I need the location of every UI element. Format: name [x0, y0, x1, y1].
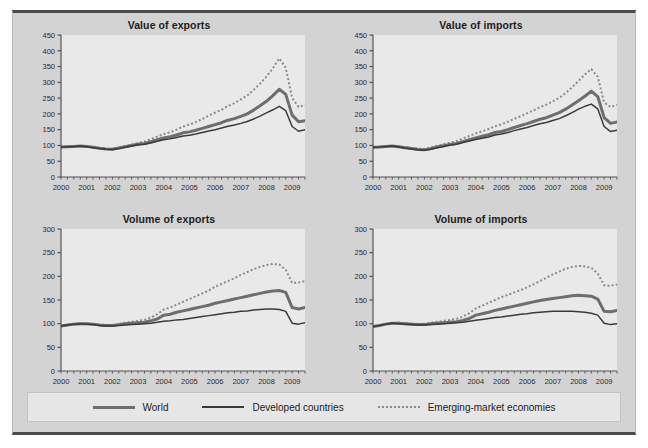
svg-text:200: 200 [42, 110, 55, 119]
svg-text:200: 200 [42, 272, 55, 281]
svg-text:2002: 2002 [416, 377, 433, 386]
svg-text:100: 100 [354, 319, 367, 328]
chart-grid: Value of exports 05010015020025030035040… [13, 13, 635, 432]
svg-text:350: 350 [354, 62, 367, 71]
svg-text:250: 250 [354, 94, 367, 103]
svg-text:2001: 2001 [390, 377, 407, 386]
line-swatch-icon [93, 402, 135, 412]
svg-text:2002: 2002 [104, 183, 121, 192]
svg-text:350: 350 [42, 62, 55, 71]
svg-text:0: 0 [363, 173, 367, 182]
svg-text:2007: 2007 [232, 377, 249, 386]
svg-text:2006: 2006 [207, 377, 224, 386]
panel-volume-of-imports: Volume of imports 0501001502002503002000… [325, 209, 637, 405]
svg-text:150: 150 [42, 296, 55, 305]
line-chart-volume-of-imports: 0501001502002503002000200120022003200420… [325, 209, 637, 405]
svg-text:50: 50 [47, 157, 55, 166]
svg-text:100: 100 [42, 141, 55, 150]
svg-text:300: 300 [42, 78, 55, 87]
svg-text:250: 250 [42, 94, 55, 103]
svg-text:2001: 2001 [78, 377, 95, 386]
svg-text:2008: 2008 [258, 377, 275, 386]
chart-frame: Value of exports 05010015020025030035040… [12, 10, 636, 435]
svg-text:200: 200 [354, 272, 367, 281]
svg-text:2001: 2001 [390, 183, 407, 192]
svg-text:2000: 2000 [365, 183, 382, 192]
svg-text:2007: 2007 [544, 377, 561, 386]
svg-text:50: 50 [359, 157, 367, 166]
svg-text:100: 100 [354, 141, 367, 150]
svg-text:2006: 2006 [207, 183, 224, 192]
svg-text:300: 300 [354, 225, 367, 234]
dotted-line-swatch-icon [378, 402, 420, 412]
svg-text:150: 150 [354, 125, 367, 134]
svg-text:2004: 2004 [155, 183, 172, 192]
svg-text:300: 300 [354, 78, 367, 87]
svg-text:400: 400 [354, 47, 367, 56]
svg-text:2004: 2004 [155, 377, 172, 386]
svg-text:2007: 2007 [232, 183, 249, 192]
panel-volume-of-exports: Volume of exports 0501001502002503002000… [13, 209, 325, 405]
svg-text:450: 450 [42, 31, 55, 40]
svg-text:50: 50 [359, 343, 367, 352]
svg-text:2008: 2008 [570, 183, 587, 192]
chart-legend: World Developed countries Emerging-marke… [27, 392, 621, 422]
svg-text:2006: 2006 [519, 377, 536, 386]
svg-text:2003: 2003 [130, 183, 147, 192]
svg-text:2009: 2009 [596, 183, 613, 192]
legend-label: Developed countries [252, 402, 343, 413]
svg-text:2005: 2005 [493, 377, 510, 386]
svg-text:2007: 2007 [544, 183, 561, 192]
svg-text:2005: 2005 [181, 377, 198, 386]
svg-text:2005: 2005 [181, 183, 198, 192]
line-swatch-icon [202, 402, 244, 412]
legend-item-emerging-market-economies: Emerging-market economies [378, 402, 556, 413]
svg-text:250: 250 [354, 248, 367, 257]
svg-text:2006: 2006 [519, 183, 536, 192]
line-chart-value-of-exports: 0501001502002503003504004502000200120022… [13, 15, 325, 211]
svg-text:50: 50 [47, 343, 55, 352]
panel-value-of-imports: Value of imports 05010015020025030035040… [325, 15, 637, 211]
svg-text:2008: 2008 [570, 377, 587, 386]
svg-text:2003: 2003 [130, 377, 147, 386]
svg-text:2000: 2000 [53, 183, 70, 192]
svg-text:0: 0 [363, 367, 367, 376]
svg-text:2009: 2009 [284, 377, 301, 386]
svg-text:100: 100 [42, 319, 55, 328]
svg-text:2000: 2000 [365, 377, 382, 386]
panel-value-of-exports: Value of exports 05010015020025030035040… [13, 15, 325, 211]
svg-text:250: 250 [42, 248, 55, 257]
legend-label: Emerging-market economies [428, 402, 556, 413]
svg-text:0: 0 [51, 173, 55, 182]
line-chart-volume-of-exports: 0501001502002503002000200120022003200420… [13, 209, 325, 405]
svg-text:2001: 2001 [78, 183, 95, 192]
legend-label: World [143, 402, 169, 413]
svg-text:2005: 2005 [493, 183, 510, 192]
svg-text:400: 400 [42, 47, 55, 56]
svg-text:200: 200 [354, 110, 367, 119]
line-chart-value-of-imports: 0501001502002503003504004502000200120022… [325, 15, 637, 211]
svg-text:2004: 2004 [467, 183, 484, 192]
svg-text:0: 0 [51, 367, 55, 376]
svg-text:150: 150 [354, 296, 367, 305]
svg-text:2003: 2003 [442, 377, 459, 386]
svg-text:2000: 2000 [53, 377, 70, 386]
svg-text:2004: 2004 [467, 377, 484, 386]
svg-text:450: 450 [354, 31, 367, 40]
svg-text:2009: 2009 [596, 377, 613, 386]
svg-text:2009: 2009 [284, 183, 301, 192]
svg-text:150: 150 [42, 125, 55, 134]
svg-text:2008: 2008 [258, 183, 275, 192]
svg-text:2003: 2003 [442, 183, 459, 192]
svg-text:2002: 2002 [416, 183, 433, 192]
figure-container: Value of exports 05010015020025030035040… [0, 0, 648, 448]
legend-item-world: World [93, 402, 169, 413]
legend-item-developed-countries: Developed countries [202, 402, 343, 413]
svg-text:2002: 2002 [104, 377, 121, 386]
svg-text:300: 300 [42, 225, 55, 234]
